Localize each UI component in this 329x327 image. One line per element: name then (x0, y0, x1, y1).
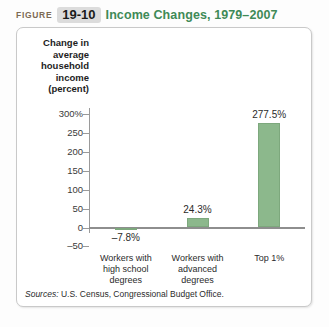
source-note: Sources: U.S. Census, Congressional Budg… (25, 289, 224, 299)
y-tick-label-200: 200 (25, 146, 83, 157)
figure-number-badge: 19-10 (57, 7, 100, 24)
y-tick-label-0: 0 (25, 222, 83, 233)
source-prefix: Sources: (25, 289, 59, 299)
y-tick-150 (83, 171, 89, 172)
bar (115, 228, 137, 231)
y-tick--50 (83, 246, 89, 247)
figure-header: FIGURE 19-10 Income Changes, 1979–2007 (16, 6, 278, 24)
y-tick-label-100: 100 (25, 184, 83, 195)
figure-container: FIGURE 19-10 Income Changes, 1979–2007 C… (0, 0, 329, 327)
figure-title: Income Changes, 1979–2007 (106, 8, 278, 22)
y-tick-label-150: 150 (25, 165, 83, 176)
y-tick-label-300: 300% (25, 108, 83, 119)
chart-panel: Change in average household income (perc… (16, 27, 312, 307)
y-axis-title: Change in average household income (perc… (21, 37, 89, 95)
bar (187, 218, 209, 227)
y-tick-50 (83, 209, 89, 210)
bar-value-label: –7.8% (91, 232, 161, 243)
y-tick-200 (83, 152, 89, 153)
y-tick-label-50: 50 (25, 203, 83, 214)
y-tick-label--50: –50 (25, 240, 83, 251)
bar-value-label: 24.3% (163, 204, 233, 215)
category-label: Workers with high school degrees (93, 253, 159, 286)
y-axis-line (89, 108, 90, 233)
bar (258, 123, 280, 228)
y-tick-250 (83, 133, 89, 134)
source-text: U.S. Census, Congressional Budget Office… (61, 289, 224, 299)
y-tick-100 (83, 190, 89, 191)
y-tick-300 (83, 114, 89, 115)
y-tick-label-250: 250 (25, 127, 83, 138)
bar-value-label: 277.5% (234, 109, 304, 120)
figure-label: FIGURE (16, 10, 52, 20)
category-label: Top 1% (236, 253, 302, 264)
category-label: Workers with advanced degrees (165, 253, 231, 286)
y-tick-0 (83, 228, 89, 229)
